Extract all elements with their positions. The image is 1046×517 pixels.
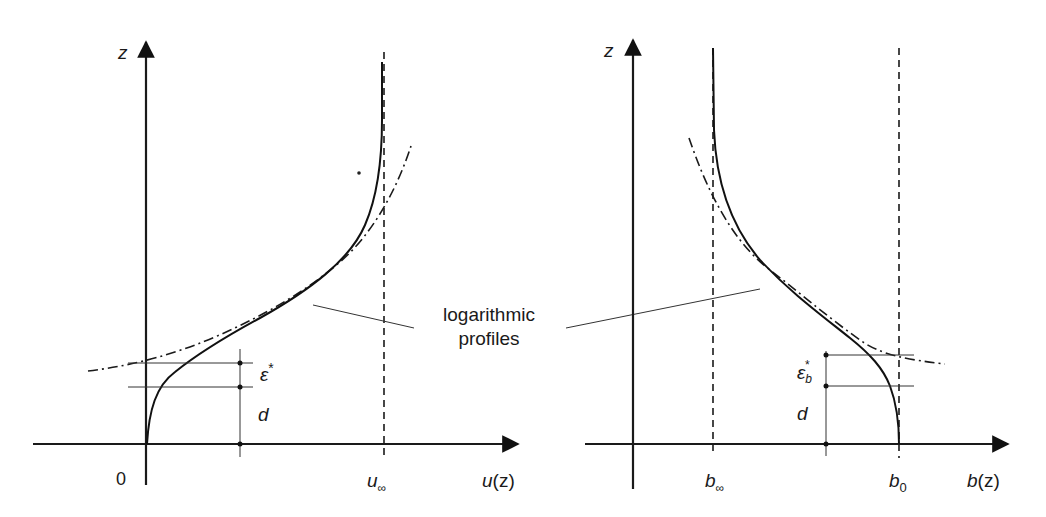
epsilon-star-label: ε* [260, 360, 274, 385]
diagram-canvas: z 0 ε* d u∞ u(z) logarithmic profiles [0, 0, 1046, 517]
right-z-label: z [603, 40, 614, 61]
epsilon-b-star-label: εb* [797, 358, 812, 386]
left-dim-tick [238, 361, 243, 366]
origin-label: 0 [116, 469, 126, 489]
right-d-label: d [797, 403, 809, 424]
left-panel: z 0 ε* d u∞ u(z) [33, 42, 518, 495]
annotation-line2: profiles [458, 328, 519, 349]
b-inf-label: b∞ [705, 470, 724, 495]
left-dim-tick [238, 442, 243, 447]
annotation-pointer-right [566, 289, 760, 328]
b-of-z-label: b(z) [967, 470, 1000, 491]
left-dim-tick [238, 385, 243, 390]
annotation-line1: logarithmic [443, 304, 535, 325]
right-dim-tick [824, 384, 829, 389]
left-d-label: d [258, 404, 270, 425]
right-log-profile [689, 138, 945, 364]
annotation: logarithmic profiles [313, 289, 760, 349]
u-inf-label: u∞ [367, 470, 386, 495]
b0-label: b0 [889, 470, 907, 495]
right-dim-tick [824, 353, 829, 358]
annotation-pointer-left [313, 305, 414, 328]
left-dot-mark [357, 171, 361, 175]
left-z-label: z [117, 42, 128, 63]
right-panel: z εb* d b∞ b0 b(z) [585, 40, 1008, 495]
right-dim-tick [824, 442, 829, 447]
left-log-profile [88, 146, 411, 371]
u-of-z-label: u(z) [482, 470, 515, 491]
